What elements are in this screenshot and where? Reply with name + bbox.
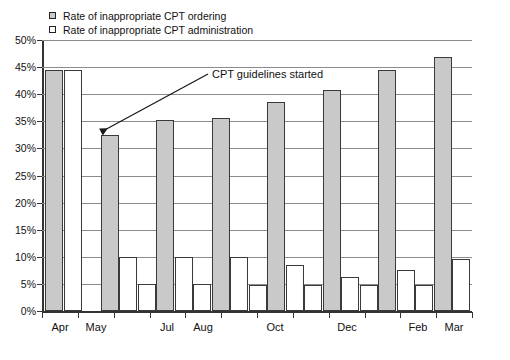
y-tick-label: 40% <box>0 89 36 99</box>
bar-ordering <box>156 120 174 311</box>
gray-filled-square-icon <box>49 12 56 19</box>
y-tick-label: 5% <box>0 279 36 289</box>
chart-legend: Rate of inappropriate CPT ordering Rate … <box>49 9 253 36</box>
x-tick-mark <box>436 312 437 318</box>
x-tick-mark <box>257 312 258 318</box>
y-tick-label: 45% <box>0 62 36 72</box>
x-tick-label: Oct <box>266 320 283 334</box>
annotation-label: CPT guidelines started <box>212 68 323 81</box>
x-tick-label: Aug <box>193 320 213 334</box>
bar-administration <box>304 285 322 311</box>
y-tick-label: 30% <box>0 143 36 153</box>
x-tick-label: May <box>86 320 107 334</box>
y-tick-label: 0% <box>0 306 36 316</box>
x-tick-mark <box>221 312 222 318</box>
bar-administration <box>286 265 304 311</box>
y-tick-label: 10% <box>0 252 36 262</box>
x-tick-mark <box>78 312 79 318</box>
bar-administration <box>138 284 156 311</box>
bar-ordering <box>434 57 452 311</box>
legend-label-administration: Rate of inappropriate CPT administration <box>63 24 253 36</box>
bar-administration <box>193 284 211 311</box>
legend-label-ordering: Rate of inappropriate CPT ordering <box>63 10 226 22</box>
y-tick-label-wrap: 5% <box>0 279 36 289</box>
bar-administration <box>175 257 193 311</box>
x-tick-mark <box>185 312 186 318</box>
x-tick-mark <box>400 312 401 318</box>
bar-administration <box>360 285 378 311</box>
x-tick-label: Apr <box>51 320 68 334</box>
x-tick-mark <box>472 312 473 318</box>
y-tick-label-wrap: 15% <box>0 225 36 235</box>
bar-ordering <box>212 118 230 311</box>
y-tick-label: 15% <box>0 225 36 235</box>
y-tick-label: 20% <box>0 198 36 208</box>
x-tick-label: Mar <box>445 320 464 334</box>
y-tick-label-wrap: 35% <box>0 116 36 126</box>
bar-administration <box>230 257 248 311</box>
x-tick-mark <box>150 312 151 318</box>
bar-ordering <box>101 135 119 311</box>
bar-administration <box>452 259 470 311</box>
bar-ordering <box>45 70 63 311</box>
x-axis-labels: AprMayJulAugOctDecFebMar <box>42 320 472 336</box>
y-tick-label-wrap: 50% <box>0 35 36 45</box>
y-tick-label-wrap: 25% <box>0 171 36 181</box>
bar-administration <box>64 70 82 311</box>
legend-item-administration: Rate of inappropriate CPT administration <box>49 23 253 36</box>
x-tick-label: Dec <box>337 320 357 334</box>
bar-administration <box>119 257 137 311</box>
y-tick-label: 35% <box>0 116 36 126</box>
x-tick-mark <box>365 312 366 318</box>
legend-item-ordering: Rate of inappropriate CPT ordering <box>49 9 253 22</box>
y-tick-label-wrap: 30% <box>0 143 36 153</box>
x-tick-mark <box>114 312 115 318</box>
y-tick-label-wrap: 10% <box>0 252 36 262</box>
x-tick-mark <box>329 312 330 318</box>
x-tick-mark <box>293 312 294 318</box>
x-tick-label: Feb <box>409 320 428 334</box>
bar-ordering <box>267 102 285 311</box>
bar-chart: Rate of inappropriate CPT ordering Rate … <box>0 0 510 360</box>
y-tick-label-wrap: 20% <box>0 198 36 208</box>
y-tick-label-wrap: 45% <box>0 62 36 72</box>
white-hollow-square-icon <box>49 26 56 33</box>
y-tick-label-wrap: 0% <box>0 306 36 316</box>
bar-ordering <box>378 70 396 311</box>
y-tick-label-wrap: 40% <box>0 89 36 99</box>
x-tick-label: Jul <box>160 320 174 334</box>
bar-administration <box>397 270 415 311</box>
x-tick-mark <box>42 312 43 318</box>
bar-administration <box>415 285 433 311</box>
y-tick-label: 25% <box>0 171 36 181</box>
y-tick-label: 50% <box>0 35 36 45</box>
x-axis-ticks <box>42 312 472 320</box>
bar-ordering <box>323 90 341 311</box>
bar-administration <box>341 277 359 311</box>
bar-administration <box>249 285 267 311</box>
